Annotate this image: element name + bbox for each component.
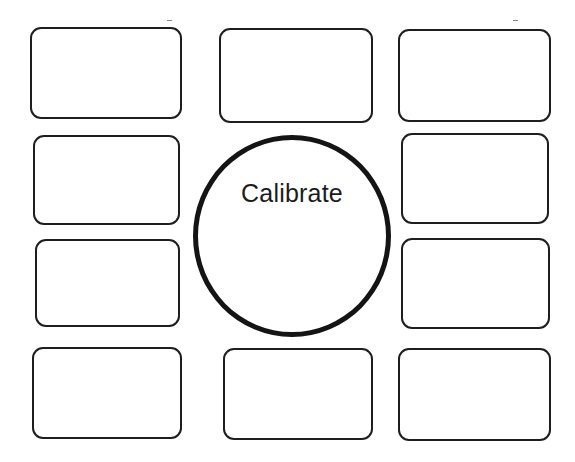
artifact-mark — [167, 20, 172, 21]
target-box-bottom-right[interactable] — [398, 348, 551, 441]
target-box-lower-left[interactable] — [35, 239, 180, 327]
target-box-top-right[interactable] — [398, 29, 551, 122]
target-box-bottom-left[interactable] — [32, 347, 182, 439]
calibrate-button[interactable]: Calibrate — [193, 135, 391, 337]
target-box-top-left[interactable] — [30, 27, 182, 119]
target-box-top-center[interactable] — [219, 28, 373, 123]
artifact-mark — [513, 20, 518, 21]
target-box-upper-left[interactable] — [33, 135, 180, 225]
calibrate-label: Calibrate — [198, 179, 386, 208]
target-box-bottom-center[interactable] — [223, 348, 373, 440]
target-box-upper-right[interactable] — [401, 133, 549, 224]
target-box-lower-right[interactable] — [401, 238, 550, 329]
calibration-screen: Calibrate — [0, 0, 575, 462]
